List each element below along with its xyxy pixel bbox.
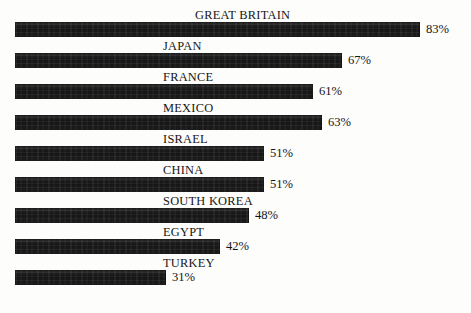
bar-value-label: 83% <box>426 21 449 37</box>
bar-value-label: 63% <box>328 114 351 130</box>
bar <box>15 270 166 285</box>
bar-rows: GREAT BRITAIN83%JAPAN67%FRANCE61%MEXICO6… <box>0 8 471 287</box>
bar-category-label: JAPAN <box>163 39 202 53</box>
bar-category-label: TURKEY <box>163 256 215 270</box>
bar-row: ISRAEL51% <box>0 132 471 163</box>
bar <box>15 208 249 223</box>
bar-category-label: CHINA <box>163 163 204 177</box>
bar-row: FRANCE61% <box>0 70 471 101</box>
bar <box>15 177 264 192</box>
bar-value-label: 51% <box>270 145 293 161</box>
bar-line: 63% <box>0 115 471 132</box>
bar-value-label: 48% <box>255 207 278 223</box>
bar-category-label: SOUTH KOREA <box>163 194 253 208</box>
bar-value-label: 67% <box>348 52 371 68</box>
bar <box>15 22 420 37</box>
bar-line: 67% <box>0 53 471 70</box>
bar <box>15 115 322 130</box>
bar-row: MEXICO63% <box>0 101 471 132</box>
bar-chart: GREAT BRITAIN83%JAPAN67%FRANCE61%MEXICO6… <box>0 0 471 313</box>
bar <box>15 84 313 99</box>
bar-row: SOUTH KOREA48% <box>0 194 471 225</box>
bar <box>15 53 342 68</box>
bar-category-label: MEXICO <box>163 101 213 115</box>
bar-line: 61% <box>0 84 471 101</box>
bar-value-label: 31% <box>172 269 195 285</box>
bar-value-label: 51% <box>270 176 293 192</box>
bar-category-label: ISRAEL <box>163 132 208 146</box>
bar-line: 51% <box>0 177 471 194</box>
bar-row: CHINA51% <box>0 163 471 194</box>
bar-row: GREAT BRITAIN83% <box>0 8 471 39</box>
bar <box>15 239 220 254</box>
bar-category-label: GREAT BRITAIN <box>195 8 290 22</box>
bar-row: EGYPT42% <box>0 225 471 256</box>
bar-value-label: 61% <box>319 83 342 99</box>
bar-category-label: FRANCE <box>163 70 213 84</box>
bar-line: 48% <box>0 208 471 225</box>
bar-category-label: EGYPT <box>163 225 204 239</box>
bar-value-label: 42% <box>226 238 249 254</box>
bar <box>15 146 264 161</box>
bar-line: 51% <box>0 146 471 163</box>
bar-row: TURKEY31% <box>0 256 471 287</box>
bar-line: 83% <box>0 22 471 39</box>
bar-row: JAPAN67% <box>0 39 471 70</box>
bar-line: 31% <box>0 270 471 287</box>
bar-line: 42% <box>0 239 471 256</box>
